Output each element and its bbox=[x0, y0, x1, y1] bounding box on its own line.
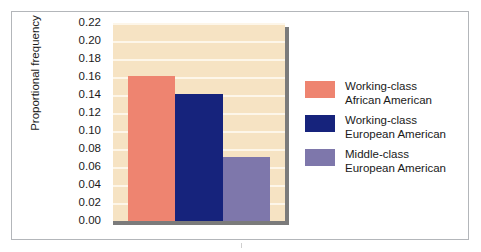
legend-label: Working-classAfrican American bbox=[345, 80, 432, 107]
legend-swatch bbox=[305, 81, 335, 98]
y-axis-tick-labels: 0.220.200.180.160.140.120.100.080.060.04… bbox=[41, 23, 107, 221]
y-axis-tick-label: 0.04 bbox=[79, 179, 101, 191]
legend-label-line-1: Working-class bbox=[345, 80, 432, 94]
y-axis-tick-label: 0.10 bbox=[79, 125, 101, 137]
legend-label-line-2: European American bbox=[345, 162, 446, 176]
legend-entry: Working-classAfrican American bbox=[305, 80, 465, 107]
legend-label: Middle-classEuropean American bbox=[345, 148, 446, 175]
legend-swatch bbox=[305, 149, 335, 166]
chart-legend: Working-classAfrican AmericanWorking-cla… bbox=[305, 80, 465, 182]
legend-label-line-1: Working-class bbox=[345, 114, 446, 128]
y-axis-tick-label: 0.02 bbox=[79, 197, 101, 209]
x-axis-baseline bbox=[113, 221, 289, 225]
y-axis-tick-label: 0.12 bbox=[79, 107, 101, 119]
y-axis-tick-label: 0.18 bbox=[79, 53, 101, 65]
gridline bbox=[113, 59, 285, 61]
y-axis-tick-label: 0.22 bbox=[79, 17, 101, 29]
legend-label-line-1: Middle-class bbox=[345, 148, 446, 162]
plot-canvas bbox=[113, 23, 285, 221]
y-axis-tick-label: 0.20 bbox=[79, 35, 101, 47]
y-axis-tick-label: 0.06 bbox=[79, 161, 101, 173]
bar bbox=[175, 94, 222, 221]
y-axis-tick-label: 0.08 bbox=[79, 143, 101, 155]
legend-label-line-2: African American bbox=[345, 94, 432, 108]
page-tick-mark bbox=[241, 243, 242, 248]
gridline bbox=[113, 41, 285, 43]
bar bbox=[223, 157, 270, 221]
gridline bbox=[113, 23, 285, 25]
plot-area bbox=[113, 23, 285, 221]
legend-swatch bbox=[305, 115, 335, 132]
y-axis-tick-label: 0.16 bbox=[79, 71, 101, 83]
legend-label: Working-classEuropean American bbox=[345, 114, 446, 141]
y-axis-tick-label: 0.00 bbox=[79, 215, 101, 227]
bar bbox=[128, 76, 175, 221]
legend-label-line-2: European American bbox=[345, 128, 446, 142]
y-axis-title: Proportional frequency bbox=[29, 0, 41, 158]
y-axis-tick-label: 0.14 bbox=[79, 89, 101, 101]
legend-entry: Middle-classEuropean American bbox=[305, 148, 465, 175]
legend-entry: Working-classEuropean American bbox=[305, 114, 465, 141]
chart-figure: 0.220.200.180.160.140.120.100.080.060.04… bbox=[11, 11, 469, 240]
